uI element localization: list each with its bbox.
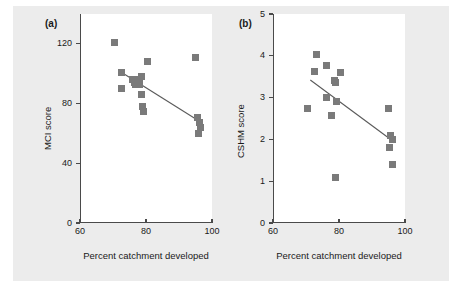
x-tick-mark: [211, 219, 212, 223]
data-point-marker: [385, 105, 392, 112]
y-tick-mark: [76, 43, 80, 44]
data-point-marker: [333, 98, 340, 105]
y-tick-mark: [269, 97, 273, 98]
panel-a-label: (a): [45, 18, 57, 29]
x-tick-mark: [79, 219, 80, 223]
data-point-marker: [332, 174, 339, 181]
y-tick-mark: [269, 139, 273, 140]
x-tick-mark: [145, 219, 146, 223]
panel-b-y-axis-title: CSHM score: [235, 104, 246, 158]
x-tick-mark: [338, 219, 339, 223]
y-tick-mark: [269, 181, 273, 182]
data-point-marker: [111, 39, 118, 46]
data-point-marker: [323, 94, 330, 101]
regression-line: [274, 14, 406, 223]
y-tick-mark: [76, 103, 80, 104]
figure-container: (a) MCI score Percent catchment develope…: [0, 0, 461, 294]
x-tick-label: 80: [324, 227, 354, 236]
data-point-marker: [332, 79, 339, 86]
panel-b-label: (b): [239, 18, 252, 29]
x-tick-label: 60: [65, 227, 95, 236]
data-point-marker: [195, 130, 202, 137]
x-tick-label: 100: [197, 227, 227, 236]
data-point-marker: [304, 105, 311, 112]
data-point-marker: [138, 91, 145, 98]
data-point-marker: [389, 161, 396, 168]
x-tick-label: 60: [258, 227, 288, 236]
regression-line: [81, 14, 213, 223]
data-point-marker: [311, 68, 318, 75]
y-tick-label: 120: [46, 39, 72, 48]
panel-b: (b) CSHM score Percent catchment develop…: [225, 0, 435, 294]
y-tick-label: 1: [239, 177, 265, 186]
data-point-marker: [386, 144, 393, 151]
y-tick-label: 2: [239, 135, 265, 144]
data-point-marker: [192, 54, 199, 61]
y-tick-label: 4: [239, 51, 265, 60]
x-tick-mark: [404, 219, 405, 223]
data-point-marker: [337, 69, 344, 76]
y-tick-mark: [269, 13, 273, 14]
panel-b-plot-area: [273, 14, 405, 223]
data-point-marker: [197, 124, 204, 131]
data-point-marker: [140, 108, 147, 115]
data-point-marker: [389, 136, 396, 143]
y-tick-label: 40: [46, 159, 72, 168]
data-point-marker: [323, 62, 330, 69]
y-tick-label: 5: [239, 10, 265, 19]
data-point-marker: [328, 112, 335, 119]
panel-a-y-axis-title: MCI score: [42, 107, 53, 150]
y-tick-label: 80: [46, 99, 72, 108]
data-point-marker: [118, 85, 125, 92]
x-tick-mark: [272, 219, 273, 223]
data-point-marker: [138, 73, 145, 80]
data-point-marker: [313, 51, 320, 58]
y-tick-mark: [76, 163, 80, 164]
data-point-marker: [144, 58, 151, 65]
panel-a: (a) MCI score Percent catchment develope…: [20, 0, 230, 294]
data-point-marker: [136, 81, 143, 88]
y-tick-label: 3: [239, 93, 265, 102]
panel-a-x-axis-title: Percent catchment developed: [66, 250, 226, 261]
panel-a-plot-area: [80, 14, 212, 223]
y-tick-mark: [269, 55, 273, 56]
x-tick-label: 100: [390, 227, 420, 236]
data-point-marker: [118, 69, 125, 76]
panel-b-x-axis-title: Percent catchment developed: [259, 250, 419, 261]
x-tick-label: 80: [131, 227, 161, 236]
